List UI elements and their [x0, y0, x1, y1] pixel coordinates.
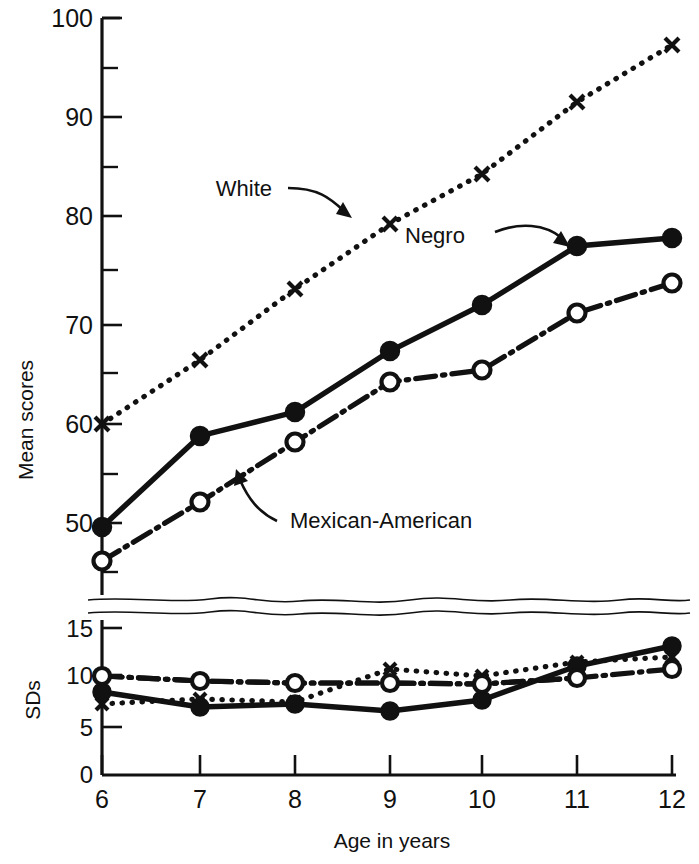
- sd-tick-label-0: 0: [80, 761, 93, 788]
- sd-tick-label-15: 15: [66, 615, 93, 642]
- x-axis-title: Age in years: [334, 829, 451, 852]
- x-tick-label-10: 10: [468, 785, 496, 813]
- axis-break: [88, 598, 690, 615]
- y-axis-title-lower: SDs: [21, 680, 44, 720]
- y-tick-label-70: 70: [65, 311, 93, 339]
- figure-container: 100 90 80 70 60 50 Mean scores: [0, 0, 699, 864]
- mean-scores-panel: 100 90 80 70 60 50 Mean scores: [14, 4, 682, 595]
- annotation-mexican-american-label: Mexican-American: [290, 508, 472, 533]
- y-tick-label-50: 50: [65, 509, 93, 537]
- annotation-white-label: White: [216, 176, 272, 201]
- annotation-mexican-american: Mexican-American: [234, 469, 472, 533]
- x-tick-label-12: 12: [658, 785, 686, 813]
- sd-tick-label-5: 5: [80, 714, 93, 741]
- x-tick-label-8: 8: [288, 785, 302, 813]
- line-chart: 100 90 80 70 60 50 Mean scores: [0, 0, 699, 864]
- y-tick-label-60: 60: [65, 410, 93, 438]
- x-tick-label-9: 9: [383, 785, 397, 813]
- x-axis-ticks: [102, 755, 672, 775]
- annotation-negro-label: Negro: [405, 223, 465, 248]
- y-tick-label-80: 80: [65, 202, 93, 230]
- x-tick-label-7: 7: [193, 785, 207, 813]
- sds-panel: 15 10 5 0 SDs 6 7 8 9 10 11 12: [21, 615, 686, 852]
- y-axis-title-upper: Mean scores: [14, 360, 37, 480]
- x-tick-label-11: 11: [564, 785, 590, 813]
- annotation-negro: Negro: [405, 223, 570, 248]
- y-axis-minor-ticks-upper: [102, 68, 118, 572]
- y-tick-label-90: 90: [65, 103, 93, 131]
- annotation-white: White: [216, 176, 352, 218]
- x-tick-label-6: 6: [95, 785, 109, 813]
- y-tick-label-100: 100: [51, 4, 93, 32]
- sd-tick-label-10: 10: [66, 662, 93, 689]
